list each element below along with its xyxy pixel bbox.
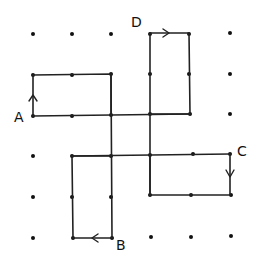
horizontal-center-bottom	[72, 154, 230, 156]
arm-a-path	[33, 74, 111, 116]
label-d: D	[131, 15, 142, 29]
direction-arrows	[29, 29, 234, 242]
arm-c-path	[150, 154, 230, 195]
arm-b-path	[72, 156, 112, 238]
grid-dots	[31, 31, 233, 240]
path-edges	[33, 33, 230, 238]
diagram-canvas	[0, 0, 258, 267]
vertical-center-left	[111, 74, 112, 238]
label-a: A	[14, 110, 24, 124]
label-b: B	[116, 238, 126, 252]
arm-d-path	[150, 33, 190, 114]
label-c: C	[237, 144, 247, 158]
